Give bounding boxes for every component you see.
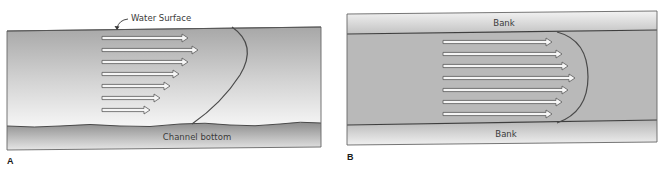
bottom-bank-label: Bank (495, 129, 516, 139)
panel-b-letter: B (347, 152, 354, 162)
panel-a: Water Surface Channel bottom A (7, 13, 321, 166)
panel-b: Bank Bank B (347, 11, 657, 162)
figure-canvas: Water Surface Channel bottom A Bank Bank… (0, 0, 661, 176)
panel-a-letter: A (7, 156, 14, 166)
water-body (7, 27, 321, 127)
channel-bottom-label: Channel bottom (163, 132, 231, 142)
top-bank-label: Bank (493, 18, 514, 28)
water-surface-label: Water Surface (131, 13, 191, 23)
